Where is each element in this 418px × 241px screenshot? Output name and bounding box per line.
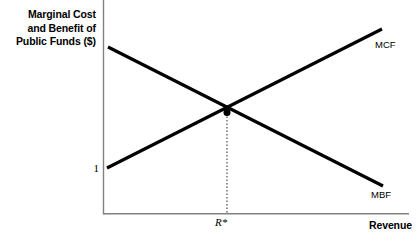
y-axis-title-line-2: and Benefit of xyxy=(0,22,96,36)
marginal-cost-benefit-chart: Marginal Cost and Benefit of Public Fund… xyxy=(0,0,418,241)
mcf-curve xyxy=(107,29,382,168)
x-axis-title: Revenue xyxy=(330,219,412,231)
mcf-curve-label: MCF xyxy=(375,39,396,50)
y-axis-tick-label-1: 1 xyxy=(88,162,99,174)
mbf-curve xyxy=(108,47,383,186)
y-axis-title-line-3: Public Funds ($) xyxy=(0,35,96,49)
mbf-curve-label: MBF xyxy=(371,189,391,200)
x-axis-tick-label-rstar: R* xyxy=(215,216,227,228)
y-axis-title-line-1: Marginal Cost xyxy=(0,8,96,22)
y-axis-title: Marginal Cost and Benefit of Public Fund… xyxy=(0,8,96,49)
equilibrium-point-marker xyxy=(224,109,231,116)
